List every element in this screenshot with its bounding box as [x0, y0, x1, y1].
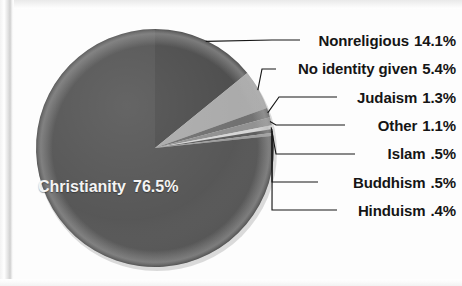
callout-label-name: Buddhism — [353, 174, 426, 191]
callout-label-name: Nonreligious — [318, 32, 408, 49]
pie-callout-label-nonreligious: Nonreligious14.1% — [318, 33, 456, 48]
slice-label-value: 76.5% — [133, 178, 178, 195]
callout-label-value: .5% — [430, 174, 456, 191]
callout-label-name: Hinduism — [358, 202, 426, 219]
callout-label-value: 1.3% — [422, 89, 456, 106]
callout-label-name: Islam — [388, 145, 426, 162]
slice-label-name: Christianity — [38, 178, 126, 195]
callout-label-value: .5% — [430, 145, 456, 162]
callout-label-name: Other — [378, 117, 418, 134]
pie-callout-label-islam: Islam.5% — [388, 146, 456, 161]
pie-callout-label-no-identity-given: No identity given5.4% — [298, 61, 456, 76]
pie-callout-label-buddhism: Buddhism.5% — [353, 175, 456, 190]
callout-label-name: Judaism — [357, 89, 417, 106]
callout-label-value: 1.1% — [422, 117, 456, 134]
pie-chart-figure: Christianity76.5% Nonreligious14.1% No i… — [0, 0, 462, 286]
callout-label-value: .4% — [430, 202, 456, 219]
pie-callout-label-other: Other1.1% — [378, 118, 456, 133]
pie-callout-label-judaism: Judaism1.3% — [357, 90, 456, 105]
callout-label-value: 5.4% — [422, 60, 456, 77]
pie-callout-label-hinduism: Hinduism.4% — [358, 203, 456, 218]
callout-label-name: No identity given — [298, 60, 417, 77]
callout-label-value: 14.1% — [414, 32, 456, 49]
pie-slice-label-christianity: Christianity76.5% — [38, 178, 178, 196]
pie-labels-layer: Christianity76.5% Nonreligious14.1% No i… — [0, 0, 462, 286]
